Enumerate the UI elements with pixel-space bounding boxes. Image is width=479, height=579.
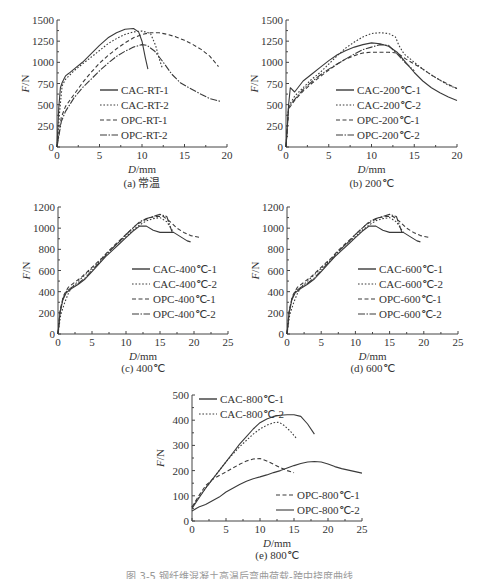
legend: CAC-600℃-1CAC-600℃-2OPC-600℃-1OPC-600℃-2 bbox=[358, 263, 443, 320]
x-tick-label: 20 bbox=[323, 523, 335, 535]
y-tick-label: 250 bbox=[38, 120, 55, 132]
legend-label: OPC-RT-2 bbox=[121, 129, 168, 141]
x-tick-label: 5 bbox=[318, 336, 324, 348]
x-tick-label: 20 bbox=[222, 149, 234, 161]
x-tick-label: 20 bbox=[189, 336, 201, 348]
x-tick-label: 25 bbox=[223, 336, 235, 348]
legend-label: OPC-800℃-1 bbox=[297, 489, 360, 501]
legend: CAC-200℃-1CAC-200℃-2OPC-200℃-1OPC-200℃-2 bbox=[336, 84, 421, 141]
y-tick-label: 1000 bbox=[262, 222, 285, 234]
legend-label: OPC-600℃-1 bbox=[379, 293, 442, 305]
x-axis-label: D/mm bbox=[262, 537, 292, 549]
panel-caption: (e) 800℃ bbox=[255, 549, 298, 562]
y-tick-label: 800 bbox=[268, 243, 285, 255]
x-axis-label: D/mm bbox=[356, 163, 386, 175]
legend-label: OPC-600℃-2 bbox=[379, 308, 442, 320]
x-tick-label: 15 bbox=[179, 149, 191, 161]
x-tick-label: 10 bbox=[350, 336, 362, 348]
legend: CAC-400℃-1CAC-400℃-2OPC-400℃-1OPC-400℃-2 bbox=[132, 263, 217, 320]
x-tick-label: 0 bbox=[189, 523, 195, 535]
x-tick-label: 0 bbox=[55, 336, 61, 348]
y-tick-label: 0 bbox=[49, 141, 55, 153]
y-tick-label: 1250 bbox=[261, 35, 284, 47]
y-tick-label: 200 bbox=[173, 465, 190, 477]
x-axis-label: D/mm bbox=[357, 350, 387, 362]
legend-label: OPC-200℃-2 bbox=[357, 129, 420, 141]
y-tick-label: 100 bbox=[173, 490, 190, 502]
legend-label: OPC-800℃-2 bbox=[297, 504, 360, 516]
y-tick-label: 400 bbox=[268, 286, 285, 298]
y-axis-label: F/N bbox=[249, 262, 261, 281]
x-tick-label: 5 bbox=[97, 149, 103, 161]
y-tick-label: 1500 bbox=[261, 14, 284, 26]
y-axis-label: F/N bbox=[154, 449, 166, 468]
x-tick-label: 10 bbox=[255, 523, 267, 535]
y-tick-label: 250 bbox=[267, 120, 284, 132]
y-tick-label: 500 bbox=[38, 99, 55, 111]
y-tick-label: 1200 bbox=[262, 201, 285, 213]
y-tick-label: 0 bbox=[50, 328, 56, 340]
y-axis-label: F/N bbox=[248, 75, 260, 94]
figure-caption: 图 3-5 钢纤维混凝土高温后弯曲荷载-跨中挠度曲线 bbox=[0, 568, 479, 579]
x-tick-label: 15 bbox=[289, 523, 301, 535]
x-tick-label: 20 bbox=[418, 336, 430, 348]
x-tick-label: 25 bbox=[357, 523, 369, 535]
legend-label: OPC-RT-1 bbox=[121, 114, 168, 126]
legend-label: OPC-400℃-2 bbox=[153, 308, 216, 320]
x-tick-label: 5 bbox=[89, 336, 95, 348]
y-tick-label: 750 bbox=[267, 78, 284, 90]
x-tick-label: 0 bbox=[284, 336, 290, 348]
y-tick-label: 1500 bbox=[32, 14, 55, 26]
x-tick-label: 15 bbox=[155, 336, 167, 348]
y-tick-label: 750 bbox=[38, 78, 55, 90]
x-tick-label: 5 bbox=[223, 523, 229, 535]
y-tick-label: 200 bbox=[268, 307, 285, 319]
y-tick-label: 1000 bbox=[32, 56, 55, 68]
y-tick-label: 400 bbox=[173, 414, 190, 426]
y-tick-label: 200 bbox=[39, 307, 56, 319]
legend-label: CAC-RT-1 bbox=[121, 84, 169, 96]
legend-label: CAC-200℃-2 bbox=[357, 99, 421, 111]
y-tick-label: 800 bbox=[39, 243, 56, 255]
y-tick-label: 1000 bbox=[33, 222, 56, 234]
legend-label: OPC-400℃-1 bbox=[153, 293, 216, 305]
y-tick-label: 600 bbox=[268, 265, 285, 277]
x-tick-label: 0 bbox=[283, 149, 289, 161]
legend-label: CAC-200℃-1 bbox=[357, 84, 421, 96]
x-tick-label: 5 bbox=[326, 149, 332, 161]
y-tick-label: 500 bbox=[173, 389, 190, 401]
y-tick-label: 600 bbox=[39, 265, 56, 277]
y-tick-label: 1250 bbox=[32, 35, 55, 47]
chart-e-800c: 05101520250100200300400500D/mmF/N(e) 800… bbox=[154, 389, 368, 562]
legend-label: CAC-400℃-2 bbox=[153, 278, 217, 290]
chart-a-room-temperature: 051015200250500750100012501500D/mmF/N(a)… bbox=[19, 14, 233, 190]
x-tick-label: 0 bbox=[54, 149, 60, 161]
legend-label: OPC-200℃-1 bbox=[357, 114, 420, 126]
legend-label: CAC-400℃-1 bbox=[153, 263, 217, 275]
panel-caption: (d) 600℃ bbox=[350, 362, 394, 375]
series-line-cac-800-2 bbox=[192, 422, 296, 507]
panel-caption: (a) 常温 bbox=[124, 177, 161, 190]
x-tick-label: 15 bbox=[384, 336, 396, 348]
chart-c-400c: 0510152025020040060080010001200D/mmF/N(c… bbox=[20, 201, 234, 375]
panel-caption: (b) 200℃ bbox=[349, 177, 393, 190]
legend-label: CAC-600℃-1 bbox=[379, 263, 443, 275]
legend-label: CAC-800℃-2 bbox=[220, 408, 284, 420]
y-axis-label: F/N bbox=[20, 262, 32, 281]
y-axis-label: F/N bbox=[19, 75, 31, 94]
chart-b-200c: 051015200250500750100012501500D/mmF/N(b)… bbox=[248, 14, 463, 190]
legend-label: CAC-600℃-2 bbox=[379, 278, 443, 290]
legend-label: CAC-800℃-1 bbox=[220, 393, 284, 405]
x-axis-label: D/mm bbox=[128, 350, 158, 362]
legend: CAC-RT-1CAC-RT-2OPC-RT-1OPC-RT-2 bbox=[100, 84, 169, 141]
panel-caption: (c) 400℃ bbox=[121, 362, 164, 375]
x-tick-label: 20 bbox=[452, 149, 464, 161]
x-tick-label: 10 bbox=[121, 336, 133, 348]
y-tick-label: 0 bbox=[278, 141, 284, 153]
y-tick-label: 0 bbox=[184, 515, 190, 527]
y-tick-label: 400 bbox=[39, 286, 56, 298]
x-tick-label: 10 bbox=[137, 149, 149, 161]
x-axis-label: D/mm bbox=[127, 163, 157, 175]
x-tick-label: 25 bbox=[453, 336, 465, 348]
y-tick-label: 300 bbox=[173, 439, 190, 451]
